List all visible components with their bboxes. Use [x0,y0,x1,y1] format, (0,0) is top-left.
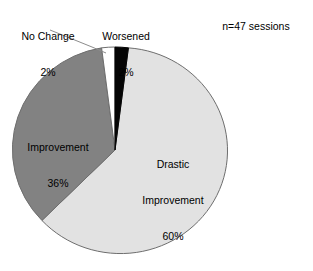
slice-label-improvement: Improvement 36% [14,117,102,213]
no-change-name: No Change [6,30,90,42]
pie-chart-figure: No Change 2% Worsened 2% n=47 sessions I… [0,0,313,271]
slice-label-no-change: No Change 2% [6,6,90,102]
drastic-improvement-name-line1: Drastic [130,158,216,170]
drastic-improvement-name-line2: Improvement [130,194,216,206]
worsened-name: Worsened [88,30,164,42]
slice-label-worsened: Worsened 2% [88,6,164,102]
no-change-percent: 2% [6,66,90,78]
drastic-improvement-percent: 60% [130,230,216,242]
improvement-percent: 36% [14,177,102,189]
sample-size-annotation: n=47 sessions [206,20,306,32]
slice-label-drastic-improvement: Drastic Improvement 60% [130,134,216,266]
improvement-name: Improvement [14,141,102,153]
worsened-percent: 2% [88,66,164,78]
